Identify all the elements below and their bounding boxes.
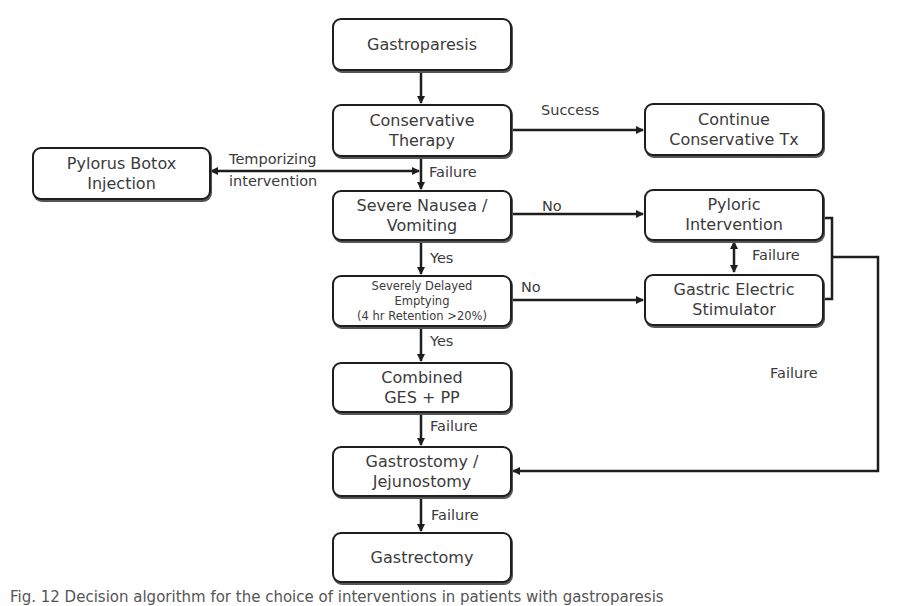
node-pyloric-intervention: Pyloric Intervention — [644, 189, 824, 241]
node-label: Stimulator — [692, 300, 776, 320]
node-label: (4 hr Retention >20%) — [357, 309, 487, 324]
node-label: Conservative — [369, 111, 474, 131]
edge-label-failure: Failure — [431, 507, 479, 524]
node-pylorus-botox-injection: Pylorus Botox Injection — [32, 147, 211, 200]
edge-label-success: Success — [541, 102, 599, 119]
node-label: Emptying — [395, 294, 450, 309]
node-label: Continue — [698, 110, 770, 130]
node-label: Pylorus Botox — [67, 154, 176, 174]
node-gastric-electric-stimulator: Gastric Electric Stimulator — [644, 274, 824, 326]
node-gastroparesis: Gastroparesis — [332, 18, 512, 71]
node-label: Therapy — [389, 131, 455, 151]
edge-label-yes: Yes — [430, 250, 453, 267]
node-conservative-therapy: Conservative Therapy — [332, 104, 512, 157]
node-label: Gastrectomy — [371, 548, 474, 568]
node-label: Pyloric — [707, 195, 760, 215]
node-label: Gastroparesis — [367, 35, 477, 55]
edge-label-failure: Failure — [752, 247, 800, 264]
edge-label-no: No — [521, 279, 541, 296]
edge-label-failure: Failure — [770, 365, 818, 382]
node-label: Intervention — [685, 215, 783, 235]
node-combined-ges-pp: Combined GES + PP — [332, 362, 512, 413]
figure-caption: Fig. 12 Decision algorithm for the choic… — [10, 588, 664, 606]
edge-label-no: No — [542, 198, 562, 215]
node-gastrectomy: Gastrectomy — [332, 532, 512, 583]
edge-label-failure: Failure — [430, 418, 478, 435]
node-label: Conservative Tx — [669, 130, 799, 150]
node-gastrostomy-jejunostomy: Gastrostomy / Jejunostomy — [332, 446, 512, 497]
edge-label-yes: Yes — [430, 333, 453, 350]
node-severe-nausea-vomiting: Severe Nausea / Vomiting — [332, 190, 512, 241]
node-label: Jejunostomy — [373, 472, 472, 492]
edge-label-failure: Failure — [429, 164, 477, 181]
node-continue-conservative-tx: Continue Conservative Tx — [644, 103, 824, 156]
edge-label-intervention: intervention — [229, 173, 317, 190]
node-label: GES + PP — [384, 388, 460, 408]
node-label: Severely Delayed — [372, 279, 473, 294]
node-label: Vomiting — [387, 216, 458, 236]
node-label: Gastrostomy / — [366, 452, 479, 472]
node-label: Injection — [87, 174, 156, 194]
node-label: Gastric Electric — [673, 280, 794, 300]
node-label: Combined — [381, 368, 462, 388]
node-severely-delayed-emptying: Severely Delayed Emptying (4 hr Retentio… — [332, 275, 512, 327]
node-label: Severe Nausea / — [357, 196, 488, 216]
edge-label-temporizing: Temporizing — [229, 151, 317, 168]
